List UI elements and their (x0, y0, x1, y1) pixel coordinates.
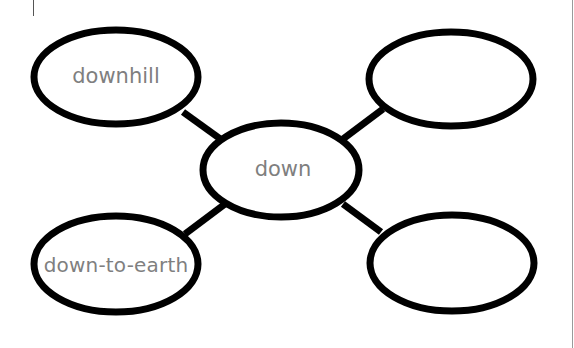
connector-bottom-left (185, 204, 225, 234)
word-web-diagram: downhill down down-to-earth (0, 0, 574, 348)
node-center-label: down (255, 159, 312, 180)
node-top-right (369, 32, 533, 126)
node-bottom-right (370, 215, 534, 311)
connector-bottom-right (343, 204, 381, 232)
node-top-left-label: downhill (72, 66, 159, 87)
connector-top-right (343, 109, 383, 139)
node-bottom-left-label: down-to-earth (44, 255, 189, 275)
